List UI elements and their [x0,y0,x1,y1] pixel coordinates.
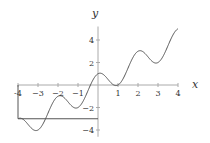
x-tick-label: -4 [14,89,22,98]
y-tick-label: −4 [82,126,94,135]
chart: -4−3−2−1123442−2−4 x y [0,0,210,143]
x-tick-label: −1 [72,89,84,98]
axes [18,27,178,137]
x-tick-label: 4 [175,89,180,98]
x-tick-label: 2 [135,89,140,98]
x-tick-label: 1 [115,89,120,98]
x-tick-label: −2 [52,89,64,98]
x-tick-label: 3 [155,89,160,98]
y-axis-label: y [91,7,99,20]
x-tick-label: −3 [32,89,44,98]
y-tick-label: −2 [82,104,94,113]
y-tick-label: 4 [89,36,94,45]
x-axis-label: x [192,78,199,91]
y-tick-label: 2 [89,59,94,68]
